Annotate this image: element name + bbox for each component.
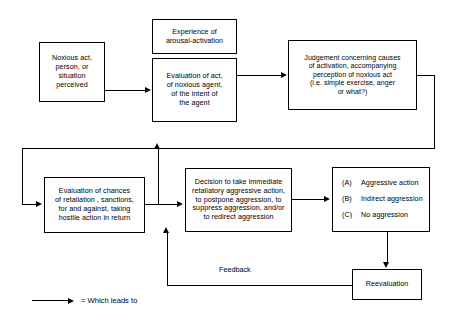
edge-feedback-riser — [167, 232, 168, 285]
legend-label: = Which leads to — [81, 296, 137, 305]
edge-feedback-top-horizontal — [22, 148, 435, 149]
node-outcomes: (A) Aggressive action (B) Indirect aggre… — [332, 167, 430, 232]
edge-riser-arrow-icon — [154, 143, 160, 149]
edge-into-chances — [22, 204, 36, 205]
edge-chances-to-decision — [145, 204, 177, 205]
node-judgement-causes: Judgement concerning causes of activatio… — [288, 40, 417, 110]
outcome-label-b: Indirect aggression — [361, 195, 423, 204]
legend-arrow-shaft-icon — [32, 300, 68, 301]
node-noxious-act: Noxious act, person, or situation percei… — [39, 42, 105, 102]
outcome-item-b: (B) Indirect aggression — [342, 195, 426, 204]
flowchart-canvas: Noxious act, person, or situation percei… — [0, 0, 458, 324]
edge-judgement-down-segment — [434, 75, 435, 149]
edge-feedback-horizontal — [167, 285, 352, 286]
outcome-label-a: Aggressive action — [361, 179, 419, 188]
outcome-key-b: (B) — [342, 195, 356, 204]
node-experience-arousal-label: Experience of arousal-activation — [166, 28, 223, 46]
node-evaluation-of-act-label: Evaluation of act, of noxious agent, of … — [166, 72, 222, 107]
label-feedback: Feedback — [216, 265, 254, 274]
node-experience-arousal: Experience of arousal-activation — [152, 19, 237, 54]
edge-evaluation-to-judgement-arrow-icon — [281, 72, 287, 78]
outcome-key-c: (C) — [342, 211, 356, 220]
edge-judgement-right-segment — [417, 75, 435, 76]
node-noxious-act-label: Noxious act, person, or situation percei… — [52, 54, 92, 89]
node-reevaluation: Reevaluation — [352, 269, 422, 300]
edge-outcomes-to-reevaluation — [387, 232, 388, 262]
node-judgement-causes-label: Judgement concerning causes of activatio… — [304, 54, 400, 97]
edge-decision-to-outcomes — [292, 199, 324, 200]
edge-noxious-to-evaluation-arrow-icon — [145, 87, 151, 93]
edge-outcomes-to-reevaluation-arrow-icon — [383, 262, 389, 268]
outcome-item-c: (C) No aggression — [342, 211, 426, 220]
edge-into-chances-arrow-icon — [36, 201, 42, 207]
edge-feedback-riser-arrow-icon — [163, 227, 169, 233]
node-evaluation-of-chances: Evaluation of chances of retaliation , s… — [44, 177, 145, 233]
node-reevaluation-label: Reevaluation — [366, 280, 409, 289]
outcome-item-a: (A) Aggressive action — [342, 179, 426, 188]
legend-arrow-right-icon — [68, 298, 74, 304]
node-decision-retaliatory: Decision to take immediate retaliatory a… — [185, 168, 292, 232]
node-evaluation-of-chances-label: Evaluation of chances of retaliation , s… — [55, 187, 134, 222]
node-decision-retaliatory-label: Decision to take immediate retaliatory a… — [192, 178, 285, 222]
outcome-label-c: No aggression — [361, 211, 408, 220]
outcome-key-a: (A) — [342, 179, 356, 188]
edge-left-down-segment — [22, 148, 23, 204]
edge-noxious-to-evaluation — [105, 90, 145, 91]
edge-chances-to-decision-arrow-icon — [177, 201, 183, 207]
edge-evaluation-to-judgement — [237, 75, 281, 76]
edge-riser-to-judgement-loop — [158, 148, 159, 204]
node-evaluation-of-act: Evaluation of act, of noxious agent, of … — [152, 58, 237, 122]
legend: = Which leads to — [32, 296, 137, 305]
edge-decision-to-outcomes-arrow-icon — [324, 196, 330, 202]
